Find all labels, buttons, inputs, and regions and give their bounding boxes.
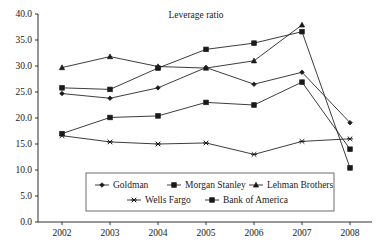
x-axis-tick-label: 2004 (149, 228, 168, 238)
data-point-marker (107, 54, 112, 59)
y-axis-tick-label: 10.0 (15, 165, 32, 175)
legend-item-label: Morgan Stanley (185, 180, 246, 190)
x-axis-tick-label: 2005 (197, 228, 216, 238)
x-axis-tick-label: 2008 (341, 228, 360, 238)
legend-item-label: Bank of America (223, 195, 289, 205)
data-point-marker (155, 142, 161, 147)
data-point-marker (156, 86, 161, 91)
data-point-marker (108, 96, 113, 101)
legend-item-label: Goldman (113, 180, 149, 190)
series-line-path (62, 68, 350, 123)
legend-marker-icon (210, 198, 215, 203)
data-point-marker (60, 86, 65, 91)
series-wells-fargo (59, 133, 353, 156)
y-axis-tick-label: 15.0 (15, 139, 32, 149)
data-point-marker (348, 147, 353, 152)
series-lehman-brothers (59, 22, 304, 70)
data-point-marker (251, 58, 256, 63)
chart-legend: GoldmanMorgan StanleyLehman BrothersWell… (86, 173, 334, 211)
legend-item-label: Wells Fargo (145, 195, 191, 205)
y-axis-tick-label: 35.0 (15, 35, 32, 45)
series-goldman (60, 65, 353, 125)
y-axis-tick-label: 30.0 (15, 61, 32, 71)
data-point-marker (204, 100, 209, 105)
y-axis-tick-label: 5.0 (20, 191, 32, 201)
x-axis-tick-label: 2002 (53, 228, 72, 238)
data-point-marker (60, 131, 65, 136)
y-axis-tick-label: 20.0 (15, 113, 32, 123)
data-point-marker (299, 22, 304, 27)
data-point-marker (156, 114, 161, 119)
data-point-marker (108, 87, 113, 92)
data-point-marker (60, 91, 65, 96)
data-point-marker (299, 139, 305, 144)
x-axis-tick-label: 2007 (293, 228, 312, 238)
data-point-marker (108, 115, 113, 120)
x-axis-tick-label: 2006 (245, 228, 264, 238)
y-axis-tick-label: 40.0 (15, 9, 32, 19)
data-point-marker (252, 82, 257, 87)
data-point-marker (347, 137, 353, 142)
legend-border (86, 173, 334, 211)
data-point-marker (300, 80, 305, 85)
leverage-ratio-chart: Leverage ratio0.05.010.015.020.025.030.0… (0, 0, 381, 242)
data-point-marker (300, 29, 305, 34)
series-line-path (62, 25, 302, 68)
data-point-marker (252, 41, 257, 46)
data-point-marker (203, 141, 209, 146)
data-point-marker (252, 103, 257, 108)
legend-item-label: Lehman Brothers (267, 180, 334, 190)
data-point-marker (348, 166, 353, 171)
series-line-path (62, 82, 350, 149)
chart-plot-area: Leverage ratio0.05.010.015.020.025.030.0… (0, 0, 381, 242)
chart-title: Leverage ratio (168, 10, 223, 20)
y-axis-tick-label: 0.0 (20, 217, 32, 227)
data-point-marker (251, 152, 257, 157)
x-axis-tick-label: 2003 (101, 228, 120, 238)
data-point-marker (204, 47, 209, 52)
series-line-path (62, 136, 350, 155)
legend-marker-icon (172, 183, 177, 188)
data-point-marker (107, 140, 113, 145)
y-axis-tick-label: 25.0 (15, 87, 32, 97)
